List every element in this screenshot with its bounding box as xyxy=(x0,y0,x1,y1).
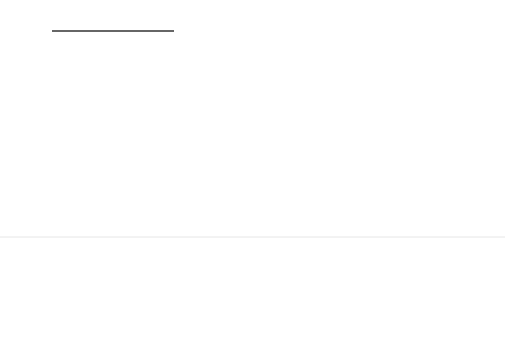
image-pipeline-frame[interactable] xyxy=(52,29,174,109)
composite-frame[interactable] xyxy=(53,105,175,108)
uml-structure-diagram xyxy=(0,0,505,352)
image-pipeline-boundary xyxy=(52,30,173,104)
